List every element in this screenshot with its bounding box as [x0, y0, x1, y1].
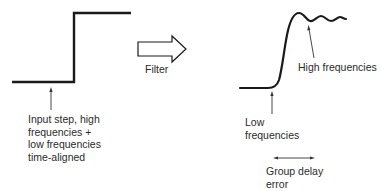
input-step-waveform — [12, 13, 131, 82]
group-delay-error-label: Group delay error — [266, 165, 323, 190]
group-delay-double-arrow-icon — [273, 156, 315, 159]
high-frequencies-pointer-arrow-icon — [307, 25, 314, 58]
high-frequencies-label: High frequencies — [298, 61, 377, 74]
filter-label: Filter — [145, 63, 168, 76]
group-delay-line-1: Group delay — [266, 165, 323, 178]
input-label-line-1: Input step, high — [28, 113, 101, 126]
group-delay-line-2: error — [266, 178, 323, 191]
input-step-label: Input step, high frequencies + low frequ… — [28, 113, 101, 163]
low-frequencies-pointer-arrow-icon — [270, 91, 273, 114]
filter-arrow-icon — [138, 36, 186, 62]
input-label-line-3: low frequencies — [28, 138, 101, 151]
output-filtered-waveform — [240, 13, 346, 88]
low-label-line-1: Low — [245, 116, 299, 129]
input-pointer-arrow-icon — [49, 87, 52, 110]
low-label-line-2: frequencies — [245, 129, 299, 142]
input-label-line-4: time-aligned — [28, 151, 101, 164]
low-frequencies-label: Low frequencies — [245, 116, 299, 141]
input-label-line-2: frequencies + — [28, 126, 101, 139]
